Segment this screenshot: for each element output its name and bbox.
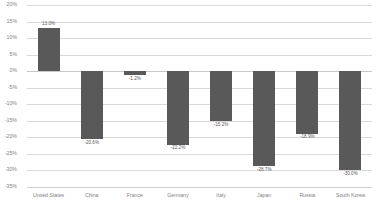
- category-label: Italy: [200, 193, 243, 198]
- bar-slot: 13.0%: [27, 5, 70, 187]
- bar-value-label: -20.6%: [84, 141, 99, 146]
- y-axis-tick-label: -30%: [0, 167, 17, 172]
- bar[interactable]: [296, 71, 318, 134]
- y-axis-tick-label: -15%: [0, 118, 17, 123]
- plot-area: 20%15%10%5%0%-5%-10%-15%-20%-25%-30%-35%…: [27, 5, 372, 187]
- bar-value-label: -1.2%: [129, 77, 141, 82]
- bar[interactable]: [38, 28, 60, 71]
- y-axis-tick-label: -20%: [0, 134, 17, 139]
- bar-value-label: -15.2%: [214, 123, 229, 128]
- bar-value-label: -18.9%: [300, 135, 315, 140]
- bar[interactable]: [167, 71, 189, 144]
- y-axis-tick-label: 5%: [0, 52, 17, 57]
- y-axis-tick-label: 0%: [0, 68, 17, 73]
- bar-series: 13.0%-20.6%-1.2%-22.2%-15.2%-28.7%-18.9%…: [27, 5, 372, 187]
- x-axis-line: [27, 187, 372, 188]
- bar-value-label: 13.0%: [42, 22, 55, 27]
- bar[interactable]: [210, 71, 232, 121]
- bar[interactable]: [339, 71, 361, 170]
- bar-value-label: -22.2%: [171, 146, 186, 151]
- category-label: China: [70, 193, 113, 198]
- category-label: Russia: [286, 193, 329, 198]
- category-label: Japan: [243, 193, 286, 198]
- bar-value-label: -30.0%: [343, 172, 358, 177]
- category-label: France: [113, 193, 156, 198]
- y-axis-tick-label: 15%: [0, 19, 17, 24]
- bar-slot: -22.2%: [156, 5, 199, 187]
- bar-slot: -30.0%: [329, 5, 372, 187]
- bar[interactable]: [124, 71, 146, 75]
- y-axis-tick-label: -25%: [0, 151, 17, 156]
- bar-slot: -20.6%: [70, 5, 113, 187]
- y-axis-tick-label: 10%: [0, 35, 17, 40]
- y-axis-tick-label: -35%: [0, 184, 17, 189]
- bar-slot: -28.7%: [243, 5, 286, 187]
- bar[interactable]: [253, 71, 275, 166]
- bar[interactable]: [81, 71, 103, 139]
- category-label: United States: [27, 193, 70, 198]
- bar-slot: -1.2%: [113, 5, 156, 187]
- y-axis-tick-label: 20%: [0, 2, 17, 7]
- bar-chart: 20%15%10%5%0%-5%-10%-15%-20%-25%-30%-35%…: [0, 0, 378, 210]
- y-axis-tick-label: -5%: [0, 85, 17, 90]
- category-label: South Korea: [329, 193, 372, 198]
- bar-value-label: -28.7%: [257, 168, 272, 173]
- y-axis-tick-label: -10%: [0, 101, 17, 106]
- bar-slot: -15.2%: [200, 5, 243, 187]
- category-label: Germany: [156, 193, 199, 198]
- bar-slot: -18.9%: [286, 5, 329, 187]
